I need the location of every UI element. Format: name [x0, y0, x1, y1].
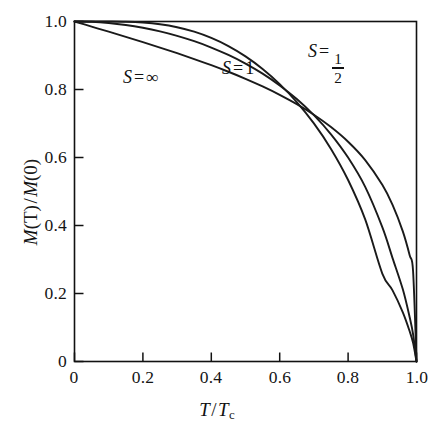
y-axis-title-den-arg: (0) — [20, 159, 41, 181]
y-axis-title-num-arg: (T) — [20, 205, 41, 229]
annotation-s-infinity-equals: = — [132, 67, 146, 87]
annotation-s-infinity: S=∞ — [123, 67, 158, 88]
fraction-denominator: 2 — [332, 69, 344, 85]
annotation-s-infinity-symbol: S — [123, 67, 132, 87]
y-tick-label-0: 0 — [23, 351, 67, 372]
x-axis-title: T/Tc — [0, 399, 434, 423]
fraction-one-half: 12 — [332, 51, 344, 85]
y-tick-label-4: 0.8 — [23, 79, 67, 100]
y-tick-label-5: 1.0 — [23, 11, 67, 32]
x-tick-label-4: 0.8 — [337, 367, 359, 388]
infinity-icon: ∞ — [146, 68, 158, 87]
x-tick-label-3: 0.6 — [269, 367, 291, 388]
x-tick-label-0: 0 — [70, 367, 79, 388]
y-axis-title: M(T)/M(0) — [20, 112, 42, 292]
annotation-s-half-symbol: S — [308, 41, 317, 61]
x-tick-label-5: 1.0 — [406, 367, 428, 388]
y-axis-title-num-var: M — [20, 229, 41, 245]
y-axis-ticks — [75, 22, 84, 362]
annotation-s-one-equals: = — [231, 58, 245, 78]
chart-figure: 0 0.2 0.4 0.6 0.8 1.0 0 0.2 0.4 0.6 0.8 … — [0, 0, 434, 432]
fraction-numerator: 1 — [332, 51, 344, 67]
annotation-s-one-symbol: S — [222, 58, 231, 78]
x-tick-label-1: 0.2 — [132, 367, 154, 388]
x-axis-title-slash: / — [210, 399, 218, 420]
annotation-s-one-value: 1 — [245, 58, 254, 78]
x-axis-ticks — [75, 353, 417, 362]
x-axis-title-subscript: c — [229, 407, 235, 422]
x-axis-title-denominator: T — [218, 399, 229, 420]
y-axis-title-slash: / — [20, 197, 41, 205]
annotation-s-half-equals: = — [317, 41, 331, 61]
annotation-s-one-half: S=12 — [308, 41, 344, 85]
x-tick-label-2: 0.4 — [200, 367, 222, 388]
y-axis-title-den-var: M — [20, 181, 41, 197]
x-axis-title-numerator: T — [199, 399, 210, 420]
annotation-s-one: S=1 — [222, 58, 254, 79]
